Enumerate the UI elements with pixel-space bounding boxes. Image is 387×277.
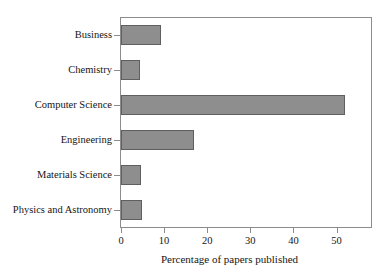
x-axis-tick-mark bbox=[164, 228, 165, 233]
bars-layer bbox=[121, 18, 371, 227]
x-axis-tick-label: 50 bbox=[322, 234, 352, 247]
y-axis-labels: BusinessChemistryComputer ScienceEnginee… bbox=[0, 0, 112, 277]
x-axis-tick-mark bbox=[337, 228, 338, 233]
x-axis-tick-label: 40 bbox=[278, 234, 308, 247]
y-axis-tick-label: Materials Science bbox=[37, 169, 112, 181]
y-axis-tick-mark bbox=[114, 175, 120, 176]
bar bbox=[121, 165, 141, 185]
x-axis-tick-mark bbox=[250, 228, 251, 233]
x-axis-tick-mark bbox=[121, 228, 122, 233]
y-axis-tick-label: Business bbox=[75, 29, 112, 41]
x-axis-tick-label: 0 bbox=[106, 234, 136, 247]
y-axis-tick-mark bbox=[114, 35, 120, 36]
y-axis-tick-label: Engineering bbox=[61, 134, 112, 146]
bar-chart: BusinessChemistryComputer ScienceEnginee… bbox=[0, 0, 387, 277]
x-axis-tick-label: 10 bbox=[149, 234, 179, 247]
bar bbox=[121, 95, 345, 115]
bar bbox=[121, 130, 194, 150]
y-axis-tick-mark bbox=[114, 70, 120, 71]
y-axis-tick-label: Computer Science bbox=[35, 99, 112, 111]
bar bbox=[121, 200, 142, 220]
x-axis-title: Percentage of papers published bbox=[0, 252, 387, 266]
x-axis-tick-mark bbox=[207, 228, 208, 233]
y-axis-tick-mark bbox=[114, 140, 120, 141]
y-axis-tick-mark bbox=[114, 210, 120, 211]
y-axis-tick-label: Chemistry bbox=[68, 64, 112, 76]
x-axis-tick-label: 20 bbox=[192, 234, 222, 247]
x-axis-tick-mark bbox=[293, 228, 294, 233]
bar bbox=[121, 25, 161, 45]
x-axis-tick-label: 30 bbox=[235, 234, 265, 247]
y-axis-tick-mark bbox=[114, 105, 120, 106]
y-axis-tick-label: Physics and Astronomy bbox=[13, 204, 112, 216]
bar bbox=[121, 60, 140, 80]
